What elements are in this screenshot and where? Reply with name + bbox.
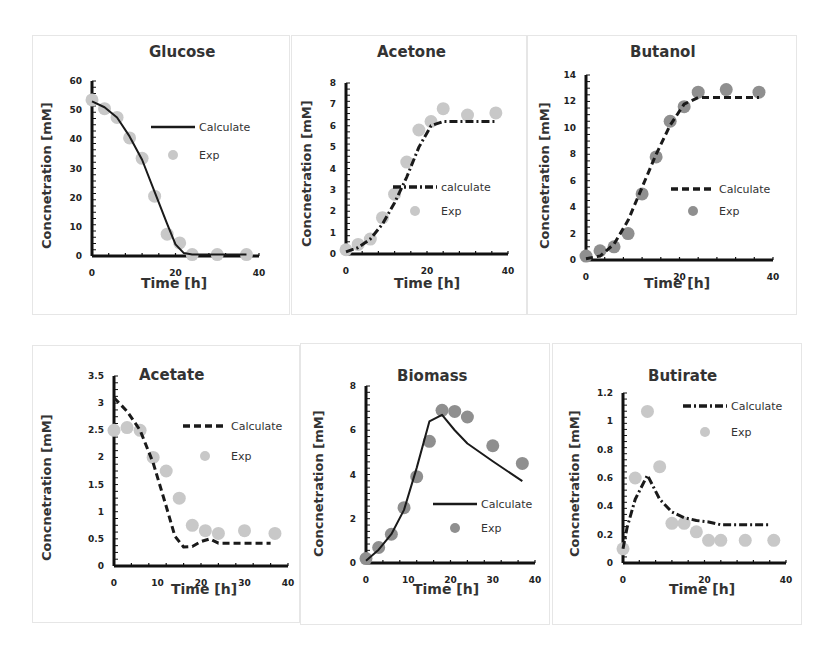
data-point <box>238 524 251 537</box>
data-point <box>412 124 425 137</box>
x-tick-label: 0 <box>363 575 369 585</box>
y-tick-label: 1 <box>330 228 336 238</box>
x-tick-label: 10 <box>151 578 164 588</box>
x-tick-label: 40 <box>502 266 515 276</box>
data-point <box>580 250 593 263</box>
chart-panel-biomass: BiomassTime [h]Concnetration [mM]0246801… <box>300 343 550 625</box>
x-tick-label: 20 <box>673 272 686 282</box>
plot-area: 02468010203040CalculateExp <box>301 344 549 624</box>
x-tick-label: 0 <box>620 575 626 585</box>
legend: calculateExp <box>393 181 491 218</box>
legend-marker-icon <box>700 427 710 437</box>
x-tick-label: 0 <box>583 272 589 282</box>
x-tick-label: 40 <box>767 272 780 282</box>
y-tick-label: 14 <box>563 70 576 80</box>
y-tick-label: 40 <box>69 134 82 144</box>
chart-panel-butirate: ButirateTime [h]Concnetration [mM]00.20.… <box>552 343 802 625</box>
chart-panel-acetone: AcetoneTime [h]Concnetration [mM]0123456… <box>291 35 527 315</box>
x-tick-label: 20 <box>698 575 711 585</box>
series-calculate-line <box>586 97 759 258</box>
legend: CalculateExp <box>151 121 251 162</box>
series-exp-markers <box>617 405 781 555</box>
data-point <box>461 410 474 423</box>
legend-marker-icon <box>168 150 178 160</box>
x-tick-label: 10 <box>402 575 415 585</box>
series-exp-markers <box>340 102 503 256</box>
legend-marker-icon <box>688 206 698 216</box>
data-point <box>720 83 733 96</box>
plot-area: 010203040506002040CalculateExp <box>33 36 289 314</box>
x-tick-label: 20 <box>169 268 182 278</box>
data-point <box>160 465 173 478</box>
data-point <box>629 472 642 485</box>
y-tick-label: 8 <box>570 149 576 159</box>
y-tick-label: 1.5 <box>88 480 104 490</box>
plot-area: 00.511.522.533.5010203040CalculateExp <box>33 346 299 622</box>
data-point <box>186 519 199 532</box>
y-tick-label: 60 <box>69 76 82 86</box>
legend-marker-icon <box>410 206 420 216</box>
x-tick-label: 20 <box>421 266 434 276</box>
data-point <box>199 524 212 537</box>
data-point <box>437 102 450 115</box>
plot-area: 00.20.40.60.811.202040CalculateExp <box>553 344 801 624</box>
legend-label: Calculate <box>231 420 283 433</box>
y-tick-label: 4 <box>570 202 576 212</box>
plot-area: 01234567802040calculateExp <box>292 36 526 314</box>
x-tick-label: 40 <box>253 268 266 278</box>
x-tick-label: 40 <box>529 575 542 585</box>
y-tick-label: 6 <box>570 176 576 186</box>
y-tick-label: 10 <box>69 222 82 232</box>
data-point <box>121 421 134 434</box>
y-tick-label: 1 <box>607 416 613 426</box>
data-point <box>489 106 502 119</box>
y-tick-label: 3 <box>98 398 104 408</box>
data-point <box>690 525 703 538</box>
legend-label: Calculate <box>481 498 533 511</box>
data-point <box>665 517 678 530</box>
legend: CalculateExp <box>183 420 283 463</box>
legend-label: Exp <box>719 205 739 218</box>
y-tick-label: 4 <box>330 164 336 174</box>
data-point <box>641 405 654 418</box>
legend-label: Exp <box>481 522 501 535</box>
y-tick-label: 0.8 <box>597 445 613 455</box>
y-tick-label: 3.5 <box>88 371 104 381</box>
y-tick-label: 2 <box>330 206 336 216</box>
y-tick-label: 3 <box>330 185 336 195</box>
legend-marker-icon <box>450 523 460 533</box>
y-tick-label: 8 <box>330 78 336 88</box>
data-point <box>767 534 780 547</box>
chart-panel-glucose: GlucoseTime [h]Concnetration [mM]0102030… <box>32 35 290 315</box>
y-tick-label: 50 <box>69 105 82 115</box>
y-tick-label: 7 <box>330 99 336 109</box>
legend-label: Calculate <box>199 121 251 134</box>
y-tick-label: 1.2 <box>597 388 613 398</box>
legend-label: Exp <box>231 450 251 463</box>
data-point <box>516 457 529 470</box>
y-tick-label: 30 <box>69 164 82 174</box>
legend-label: Exp <box>731 426 751 439</box>
y-tick-label: 0 <box>76 251 82 261</box>
plot-area: 0246810121402040CalculateExp <box>528 36 796 314</box>
y-tick-label: 4 <box>350 470 356 480</box>
data-point <box>108 424 121 437</box>
y-tick-label: 0 <box>350 558 356 568</box>
series-exp-markers <box>108 421 282 540</box>
data-point <box>212 527 225 540</box>
legend-label: Calculate <box>719 183 771 196</box>
x-tick-label: 20 <box>444 575 457 585</box>
legend: CalculateExp <box>671 183 771 218</box>
y-tick-label: 20 <box>69 193 82 203</box>
data-point <box>664 115 677 128</box>
y-tick-label: 2.5 <box>88 425 104 435</box>
y-tick-label: 1 <box>98 507 104 517</box>
y-tick-label: 6 <box>330 121 336 131</box>
y-tick-label: 8 <box>350 381 356 391</box>
legend-label: Exp <box>199 149 219 162</box>
y-tick-label: 0 <box>98 561 104 571</box>
y-tick-label: 2 <box>350 514 356 524</box>
legend: CalculateExp <box>433 498 533 535</box>
data-point <box>360 552 373 565</box>
y-tick-label: 12 <box>563 96 576 106</box>
